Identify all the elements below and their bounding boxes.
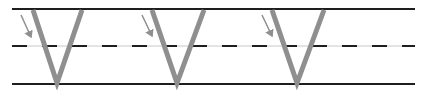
stroke-direction-arrow-icon [142, 15, 152, 36]
letter-v-practice-diagram [0, 0, 428, 90]
stroke-direction-arrow-icon [262, 15, 272, 36]
stroke-direction-arrow-icon [21, 15, 31, 37]
